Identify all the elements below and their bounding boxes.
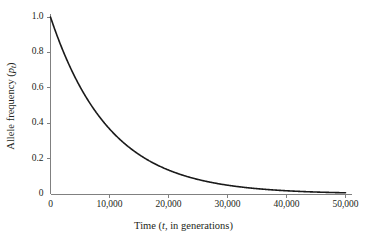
- axis-ticks: [47, 17, 346, 198]
- y-tick-label: 1.0: [0, 12, 44, 22]
- x-tick-label: 40,000: [273, 200, 299, 210]
- x-tick-label: 10,000: [96, 200, 122, 210]
- x-tick-label: 30,000: [214, 200, 240, 210]
- x-axis-title: Time (t, in generations): [0, 221, 367, 232]
- data-series-group: [51, 17, 346, 193]
- y-axis-title-symbol: p: [5, 67, 16, 72]
- x-tick-label: 50,000: [332, 200, 358, 210]
- chart-plot-area: [0, 0, 367, 236]
- y-axis-title-post: ): [5, 62, 16, 66]
- y-axis-title: Allele frequency (pt): [6, 26, 18, 186]
- x-tick-label: 20,000: [155, 200, 181, 210]
- data-series-line: [51, 17, 346, 193]
- x-axis-title-post: , in generations): [165, 220, 233, 231]
- chart-figure: 00.20.40.60.81.0 010,00020,00030,00040,0…: [0, 0, 367, 236]
- axes-lines: [51, 14, 352, 194]
- x-axis-title-pre: Time (: [134, 220, 162, 231]
- y-tick-label: 0: [0, 189, 44, 199]
- y-axis-title-pre: Allele frequency (: [5, 73, 16, 149]
- x-tick-label: 0: [48, 200, 53, 210]
